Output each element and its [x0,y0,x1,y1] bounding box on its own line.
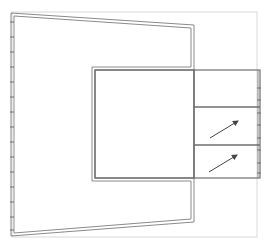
side-column [194,70,260,178]
trapezoid-outline-outer [11,13,194,236]
column-outline [194,70,260,178]
technical-drawing [0,0,272,247]
direction-arrows [209,121,238,172]
arrow-icon [210,121,238,138]
center-square [95,70,194,178]
drawing-canvas [0,0,272,247]
outer-frame [12,12,257,237]
arrow-icon [209,155,237,172]
trapezoid-outline-inner [14,16,191,233]
